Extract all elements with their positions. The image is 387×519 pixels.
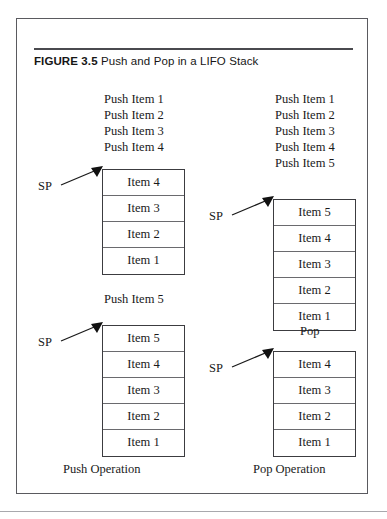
stack-cell: Item 2 [103, 222, 184, 248]
stack-cell: Item 4 [103, 170, 184, 196]
stack-cell: Item 5 [274, 200, 355, 226]
push-stage2-stack: Item 5 Item 4 Item 3 Item 2 Item 1 [102, 325, 185, 457]
push-operation-line: Push Item 1 [104, 91, 164, 107]
stack-cell: Item 1 [103, 248, 184, 274]
push-operation-line: Push Item 2 [104, 107, 164, 123]
stack-cell: Item 3 [274, 378, 355, 404]
figure-caption: FIGURE 3.5 Push and Pop in a LIFO Stack [34, 55, 354, 67]
push-operation-line: Push Item 4 [104, 139, 164, 155]
caption-divider-rule [34, 48, 353, 50]
push-stage2-operation: Push Item 5 [104, 291, 164, 307]
stack-cell: Item 3 [103, 378, 184, 404]
pop-stage2-operation: Pop [300, 323, 319, 339]
figure-caption-title: Push and Pop in a LIFO Stack [101, 55, 259, 67]
push-stage1-operation-list: Push Item 1 Push Item 2 Push Item 3 Push… [104, 91, 164, 155]
push-operation-line: Push Item 3 [275, 123, 335, 139]
stack-pointer-label: SP [209, 209, 223, 223]
stack-cell: Item 3 [274, 252, 355, 278]
push-operation-line: Push Item 1 [275, 91, 335, 107]
push-operation-line: Push Item 3 [104, 123, 164, 139]
figure-caption-number: 3.5 [81, 55, 97, 67]
pop-operation-caption: Pop Operation [253, 461, 326, 477]
stack-cell: Item 2 [274, 404, 355, 430]
pop-stage1-stack: Item 5 Item 4 Item 3 Item 2 Item 1 [273, 199, 356, 331]
stack-cell: Item 1 [274, 430, 355, 456]
stack-cell: Item 2 [274, 278, 355, 304]
push-operation-line: Push Item 2 [275, 107, 335, 123]
stack-cell: Item 4 [274, 352, 355, 378]
stack-cell: Item 5 [103, 326, 184, 352]
push-operation-line: Push Item 4 [275, 139, 335, 155]
figure-caption-label: FIGURE [34, 55, 78, 67]
stack-cell: Item 4 [103, 352, 184, 378]
pop-stage1-operation-list: Push Item 1 Push Item 2 Push Item 3 Push… [275, 91, 335, 171]
stack-cell: Item 4 [274, 226, 355, 252]
stack-pointer-label: SP [209, 361, 223, 375]
stack-cell: Item 3 [103, 196, 184, 222]
push-operation-line: Push Item 5 [275, 155, 335, 171]
figure-frame: FIGURE 3.5 Push and Pop in a LIFO Stack … [16, 18, 368, 494]
stack-pointer-label: SP [38, 335, 52, 349]
stack-cell: Item 1 [103, 430, 184, 456]
push-stage1-stack: Item 4 Item 3 Item 2 Item 1 [102, 169, 185, 275]
page-bottom-rule [0, 511, 387, 512]
pop-stage2-stack: Item 4 Item 3 Item 2 Item 1 [273, 351, 356, 457]
stack-cell: Item 2 [103, 404, 184, 430]
push-operation-caption: Push Operation [63, 461, 140, 477]
stack-pointer-label: SP [38, 179, 52, 193]
